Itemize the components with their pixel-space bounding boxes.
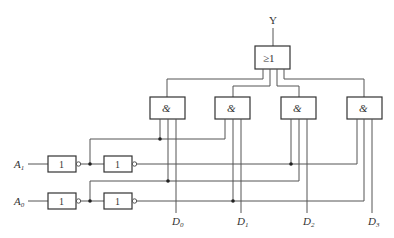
input-d1-label: D1 bbox=[236, 215, 248, 229]
or-gate-symbol: ≥1 bbox=[263, 52, 275, 64]
and-gate-1-symbol: & bbox=[227, 102, 236, 114]
input-a1-label: A1 bbox=[13, 158, 24, 172]
input-d3-label: D3 bbox=[367, 215, 380, 229]
not-gate-a1-1-symbol: 1 bbox=[59, 159, 64, 170]
and-gate-2-symbol: & bbox=[293, 102, 302, 114]
input-a0-label: A0 bbox=[13, 195, 25, 209]
logic-circuit-diagram: Y ≥1 & & & & 1 1 1 1 A1 A0 D0 D1 D2 D3 bbox=[0, 0, 394, 238]
and-gate-3-symbol: & bbox=[359, 102, 368, 114]
and-gate-0-symbol: & bbox=[162, 102, 171, 114]
not-gate-a0-1-symbol: 1 bbox=[59, 196, 64, 207]
input-d2-label: D2 bbox=[302, 215, 315, 229]
output-y-label: Y bbox=[269, 14, 277, 26]
input-d0-label: D0 bbox=[171, 215, 184, 229]
not-gate-a1-2-symbol: 1 bbox=[115, 159, 120, 170]
not-gate-a0-2-symbol: 1 bbox=[115, 196, 120, 207]
